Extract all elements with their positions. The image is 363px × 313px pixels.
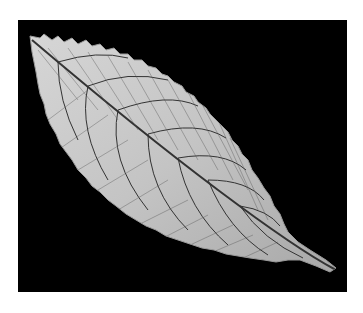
- leaf-illustration: [18, 20, 347, 292]
- photo-frame: Black and white photograph of a serrated…: [18, 20, 347, 292]
